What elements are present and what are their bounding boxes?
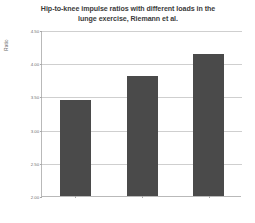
bar — [60, 100, 91, 196]
y-tick-label: 3.50 — [31, 95, 39, 100]
gridline — [42, 31, 242, 32]
chart-title-line-1: Hip-to-knee impulse ratios with differen… — [41, 5, 215, 13]
chart-title: Hip-to-knee impulse ratios with differen… — [22, 5, 234, 24]
x-tick-mark — [75, 196, 76, 198]
y-tick-mark — [40, 164, 42, 165]
plot-area: 4.504.003.503.002.502.00 12.5% of bodywe… — [41, 31, 241, 197]
y-tick-label: 3.00 — [31, 128, 39, 133]
bar — [127, 76, 158, 196]
y-tick-label: 4.50 — [31, 29, 39, 34]
y-tick-mark — [40, 64, 42, 65]
y-tick-label: 2.00 — [31, 195, 39, 200]
x-tick-mark — [142, 196, 143, 198]
y-tick-label: 2.50 — [31, 161, 39, 166]
chart-figure: Hip-to-knee impulse ratios with differen… — [0, 0, 255, 223]
x-tick-mark — [209, 196, 210, 198]
y-tick-mark — [40, 131, 42, 132]
y-tick-mark — [40, 31, 42, 32]
y-axis-title: Ratio — [4, 32, 9, 58]
y-tick-label: 4.00 — [31, 62, 39, 67]
chart-title-line-2: lunge exercise, Riemann et al. — [78, 15, 178, 23]
y-tick-mark — [40, 197, 42, 198]
bar — [193, 54, 224, 196]
y-tick-mark — [40, 97, 42, 98]
